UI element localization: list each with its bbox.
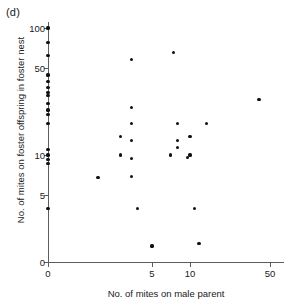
data-point [96, 176, 99, 179]
data-point [130, 157, 133, 160]
data-point [46, 162, 49, 165]
data-point [46, 26, 49, 29]
x-tick-mark [152, 263, 153, 267]
data-point [150, 244, 153, 247]
scatter-plot-figure: (d) No. of mites on foster offspring in … [0, 0, 289, 306]
data-point [188, 153, 191, 156]
y-axis-label: No. of mites on foster offspring in fost… [14, 10, 28, 250]
data-point [46, 41, 49, 44]
data-point [136, 207, 139, 210]
x-axis-label: No. of mites on male parent [48, 288, 284, 299]
x-tick-mark [270, 263, 271, 267]
data-point [130, 175, 133, 178]
data-point [46, 80, 49, 83]
data-point [130, 106, 133, 109]
data-point [205, 122, 208, 125]
x-axis-spine [48, 262, 284, 263]
y-tick-label: 100 [29, 23, 45, 34]
data-point [197, 242, 200, 245]
data-point [46, 207, 49, 210]
data-point [169, 153, 172, 156]
y-tick-label: 5 [40, 190, 45, 201]
data-point [176, 146, 179, 149]
x-tick-label: 50 [265, 268, 276, 279]
x-tick-mark [48, 263, 49, 267]
data-point [193, 207, 196, 210]
y-tick-label: 10 [34, 150, 45, 161]
data-point [46, 158, 49, 161]
data-point [46, 73, 49, 76]
data-point [46, 86, 49, 89]
data-point [46, 94, 49, 97]
data-point [130, 122, 133, 125]
data-point [130, 139, 133, 142]
x-tick-mark [190, 263, 191, 267]
data-point [46, 108, 49, 111]
data-point [46, 153, 49, 156]
y-tick-label: 50 [34, 63, 45, 74]
x-tick-label: 10 [185, 268, 196, 279]
x-tick-label: 5 [149, 268, 154, 279]
data-point [119, 153, 122, 156]
data-point [172, 51, 175, 54]
plot-area: 051050100 051050 [48, 22, 284, 262]
data-point [46, 102, 49, 105]
data-point [257, 98, 260, 101]
x-tick-label: 0 [45, 268, 50, 279]
data-point [46, 54, 49, 57]
data-point [188, 135, 191, 138]
data-point [119, 135, 122, 138]
data-point [130, 58, 133, 61]
data-point [176, 139, 179, 142]
data-point [176, 122, 179, 125]
data-point [46, 122, 49, 125]
y-tick-label: 0 [40, 257, 45, 268]
y-axis-spine [48, 22, 49, 262]
